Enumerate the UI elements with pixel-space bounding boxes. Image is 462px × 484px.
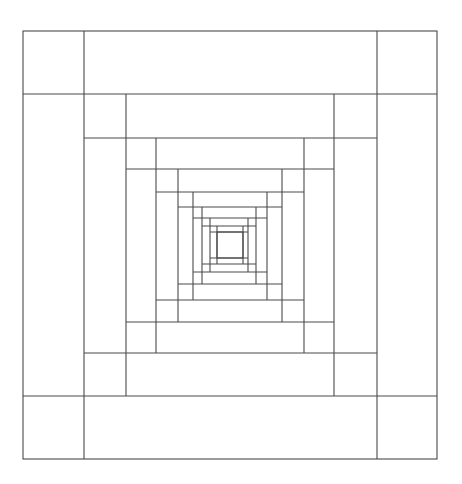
- level-2: [126, 138, 334, 353]
- nested-levels: [23, 31, 437, 459]
- level-0: [23, 31, 437, 459]
- level-6: [202, 218, 256, 272]
- level-3: [156, 169, 304, 322]
- innermost-square: [217, 232, 243, 258]
- level-4: [178, 192, 282, 300]
- level-5: [193, 207, 267, 284]
- level-1: [84, 94, 377, 396]
- nested-squares-diagram: [0, 0, 462, 484]
- outer-square: [23, 31, 437, 459]
